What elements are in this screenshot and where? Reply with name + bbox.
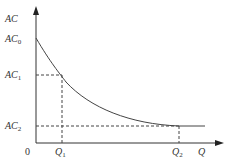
origin-label: 0 xyxy=(25,147,30,157)
y-tick-ac1: AC1 xyxy=(5,70,21,82)
x-axis-arrow-icon xyxy=(215,140,224,146)
y-axis-label: AC xyxy=(5,14,18,24)
x-tick-q2: Q2 xyxy=(172,147,183,159)
ac-curve xyxy=(36,38,205,126)
diagram-canvas xyxy=(0,0,230,163)
y-axis-arrow-icon xyxy=(33,6,39,15)
x-axis-label: Q xyxy=(198,147,205,157)
y-tick-ac0: AC0 xyxy=(5,34,21,46)
x-tick-q1: Q1 xyxy=(55,147,66,159)
y-tick-ac2: AC2 xyxy=(5,121,21,133)
